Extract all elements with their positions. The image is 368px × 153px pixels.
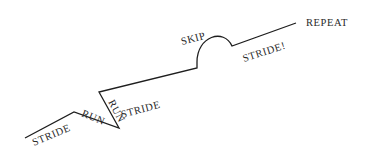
movement-path bbox=[25, 23, 296, 138]
segment-label-run-1: RUN bbox=[80, 108, 106, 127]
movement-diagram: STRIDE RUN RUN STRIDE SKIP STRIDE! REPEA… bbox=[0, 0, 368, 153]
segment-label-stride-3: STRIDE! bbox=[241, 40, 287, 64]
segment-label-stride-1: STRIDE bbox=[30, 122, 71, 148]
segment-label-stride-2: STRIDE bbox=[120, 99, 162, 120]
end-label-repeat: REPEAT bbox=[306, 17, 348, 28]
